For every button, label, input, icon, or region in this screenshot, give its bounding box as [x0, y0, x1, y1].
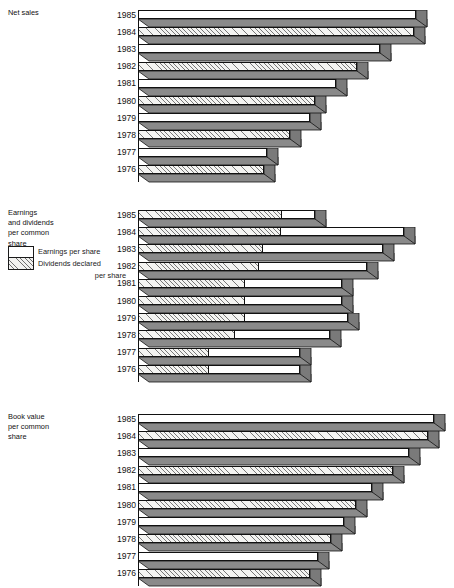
bar-face-1978	[138, 130, 290, 139]
bar-earnings-and-dividends-1981	[138, 279, 342, 288]
bar-earnings-and-dividends-1983	[138, 244, 383, 253]
bar-face-1979	[138, 113, 310, 122]
baseline-axis	[138, 414, 139, 586]
bar-segment-earnings-1977	[208, 348, 300, 357]
bar-book-value-1982	[138, 466, 393, 475]
bar-net-sales-1977	[138, 148, 267, 157]
bar-net-sales-1976	[138, 165, 264, 174]
bar-earnings-and-dividends-1977	[138, 348, 300, 357]
bar-segment-dividends-1976	[138, 365, 209, 374]
bar-face-1977	[138, 148, 267, 157]
bar-net-sales-1980	[138, 96, 315, 105]
bar-face-1980	[138, 96, 315, 105]
bar-face-1982	[138, 466, 393, 475]
bar-face-1983	[138, 44, 380, 53]
bar-segment-earnings-1985	[281, 210, 315, 219]
bar-segment-earnings-1981	[244, 279, 342, 288]
chart-panel-earnings-dividends: Earnings and dividends per common share …	[0, 200, 454, 396]
bar-segment-dividends-1978	[138, 330, 235, 339]
bar-book-value-1980	[138, 500, 356, 509]
bar-book-value-1978	[138, 534, 331, 543]
bar-segment-earnings-1983	[262, 244, 383, 253]
bar-segment-dividends-1977	[138, 348, 209, 357]
bar-segment-earnings-1980	[244, 296, 342, 305]
bar-series-earnings-dividends	[0, 200, 454, 396]
bar-segment-dividends-1980	[138, 296, 245, 305]
bar-segment-earnings-1978	[234, 330, 330, 339]
bar-face-1984	[138, 27, 414, 36]
bar-earnings-and-dividends-1976	[138, 365, 300, 374]
bar-face-1976	[138, 569, 310, 578]
plot-area-earnings-dividends: 1985198419831982198119801979197819771976	[0, 200, 454, 396]
bar-earnings-and-dividends-1982	[138, 262, 367, 271]
bar-net-sales-1985	[138, 10, 416, 19]
bar-segment-earnings-1976	[208, 365, 300, 374]
bar-book-value-1977	[138, 552, 318, 561]
bar-face-1985	[138, 10, 416, 19]
bar-book-value-1979	[138, 517, 344, 526]
bar-face-1977	[138, 552, 318, 561]
bar-segment-dividends-1985	[138, 210, 282, 219]
bar-face-1976	[138, 165, 264, 174]
bar-face-1979	[138, 517, 344, 526]
bar-net-sales-1983	[138, 44, 380, 53]
bar-series-net-sales	[0, 0, 454, 196]
bar-segment-dividends-1982	[138, 262, 259, 271]
bar-face-1981	[138, 483, 372, 492]
chart-panel-book-value: Book value per common share 198519841983…	[0, 404, 454, 588]
bar-earnings-and-dividends-1984	[138, 227, 404, 236]
bar-earnings-and-dividends-1985	[138, 210, 315, 219]
bar-face-1981	[138, 79, 336, 88]
bar-face-1982	[138, 62, 357, 71]
bar-book-value-1984	[138, 431, 428, 440]
bar-book-value-1981	[138, 483, 372, 492]
plot-area-book-value: 1985198419831982198119801979197819771976	[0, 404, 454, 588]
chart-panel-net-sales: Net sales 198519841983198219811980197919…	[0, 0, 454, 196]
bar-book-value-1976	[138, 569, 310, 578]
bar-segment-earnings-1984	[280, 227, 404, 236]
bar-face-1984	[138, 431, 428, 440]
bar-series-book-value	[0, 404, 454, 588]
bar-net-sales-1984	[138, 27, 414, 36]
bar-segment-dividends-1984	[138, 227, 281, 236]
bar-face-1985	[138, 414, 434, 423]
bar-segment-dividends-1983	[138, 244, 263, 253]
bar-net-sales-1981	[138, 79, 336, 88]
baseline-axis	[138, 10, 139, 182]
bar-earnings-and-dividends-1978	[138, 330, 330, 339]
bar-segment-dividends-1979	[138, 313, 245, 322]
bar-net-sales-1982	[138, 62, 357, 71]
bar-book-value-1983	[138, 448, 409, 457]
bar-face-1978	[138, 534, 331, 543]
bar-face-1980	[138, 500, 356, 509]
baseline-axis	[138, 210, 139, 382]
plot-area-net-sales: 1985198419831982198119801979197819771976	[0, 0, 454, 196]
bar-net-sales-1979	[138, 113, 310, 122]
bar-segment-earnings-1979	[244, 313, 348, 322]
bar-net-sales-1978	[138, 130, 290, 139]
bar-segment-dividends-1981	[138, 279, 245, 288]
bar-segment-earnings-1982	[258, 262, 367, 271]
bar-face-1983	[138, 448, 409, 457]
bar-book-value-1985	[138, 414, 434, 423]
bar-earnings-and-dividends-1979	[138, 313, 348, 322]
bar-earnings-and-dividends-1980	[138, 296, 342, 305]
